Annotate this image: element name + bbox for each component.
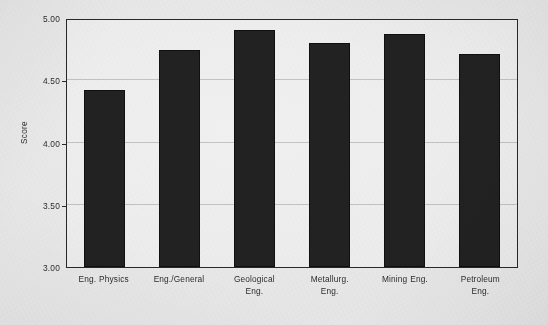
bar-slot: [442, 20, 517, 267]
x-tick-label-line: Metallurg.: [292, 274, 367, 286]
bar-slot: [67, 20, 142, 267]
x-tick-label: Eng. Physics: [66, 274, 141, 297]
bar[interactable]: [84, 90, 125, 267]
y-tick-label: 3.00: [0, 263, 60, 273]
x-tick-label: GeologicalEng.: [217, 274, 292, 297]
y-tick-label: 5.00: [0, 14, 60, 24]
bar[interactable]: [309, 43, 350, 267]
bars-container: [67, 20, 517, 267]
bar[interactable]: [459, 54, 500, 267]
bar-slot: [367, 20, 442, 267]
x-tick-label-line: Geological: [217, 274, 292, 286]
y-tick-label: 4.50: [0, 76, 60, 86]
x-tick-label-line: Mining Eng.: [367, 274, 442, 286]
bar-slot: [142, 20, 217, 267]
y-tick-mark: [62, 81, 66, 82]
x-tick-label: PetroleumEng.: [443, 274, 518, 297]
x-tick-label-line: Eng./General: [141, 274, 216, 286]
x-tick-labels: Eng. PhysicsEng./GeneralGeologicalEng.Me…: [66, 274, 518, 297]
y-tick-label: 4.00: [0, 139, 60, 149]
bar-slot: [217, 20, 292, 267]
x-tick-label: Eng./General: [141, 274, 216, 297]
x-tick-label: Metallurg.Eng.: [292, 274, 367, 297]
x-tick-label-line: Eng. Physics: [66, 274, 141, 286]
y-tick-mark: [62, 206, 66, 207]
bar[interactable]: [384, 34, 425, 267]
y-axis-title: Score: [20, 103, 29, 163]
y-tick-mark: [62, 144, 66, 145]
bar-chart-figure: Score 3.003.504.004.505.00 Eng. PhysicsE…: [0, 0, 548, 325]
x-tick-label: Mining Eng.: [367, 274, 442, 297]
bar-slot: [292, 20, 367, 267]
x-tick-label-line: Eng.: [292, 286, 367, 298]
bar[interactable]: [159, 50, 200, 267]
bar[interactable]: [234, 30, 275, 267]
x-tick-label-line: Eng.: [443, 286, 518, 298]
x-tick-label-line: Eng.: [217, 286, 292, 298]
plot-area: [66, 19, 518, 268]
y-tick-label: 3.50: [0, 201, 60, 211]
x-tick-label-line: Petroleum: [443, 274, 518, 286]
